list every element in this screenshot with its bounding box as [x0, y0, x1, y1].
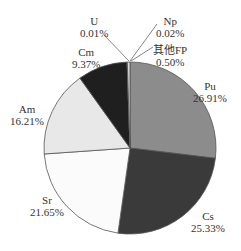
slice-label-3: Am16.21%: [10, 103, 44, 127]
slice-label-name: Cm: [72, 46, 100, 58]
slice-label-percent: 0.02%: [156, 27, 184, 39]
slice-label-percent: 21.65%: [30, 206, 64, 218]
slice-label-0: Pu26.91%: [193, 80, 227, 104]
pie-slices: [44, 62, 216, 234]
pie-slice-2: [44, 148, 130, 233]
leader-lines: [104, 24, 157, 61]
slice-label-7: 其他FP0.50%: [153, 44, 187, 68]
pie-slice-0: [130, 62, 216, 158]
slice-label-name: 其他FP: [153, 44, 187, 56]
slice-label-percent: 26.91%: [193, 92, 227, 104]
slice-label-name: Sr: [30, 194, 64, 206]
slice-label-percent: 9.37%: [72, 58, 100, 70]
slice-label-name: U: [80, 15, 108, 27]
slice-label-percent: 0.01%: [80, 27, 108, 39]
slice-label-1: Cs25.33%: [191, 210, 225, 234]
slice-label-6: Np0.02%: [156, 15, 184, 39]
slice-label-4: Cm9.37%: [72, 46, 100, 70]
slice-label-percent: 25.33%: [191, 222, 225, 234]
slice-label-2: Sr21.65%: [30, 194, 64, 218]
slice-label-name: Np: [156, 15, 184, 27]
slice-label-name: Cs: [191, 210, 225, 222]
slice-label-percent: 16.21%: [10, 115, 44, 127]
slice-label-name: Pu: [193, 80, 227, 92]
slice-label-percent: 0.50%: [153, 56, 187, 68]
leader-line-2: [131, 47, 153, 61]
slice-label-name: Am: [10, 103, 44, 115]
slice-label-5: U0.01%: [80, 15, 108, 39]
